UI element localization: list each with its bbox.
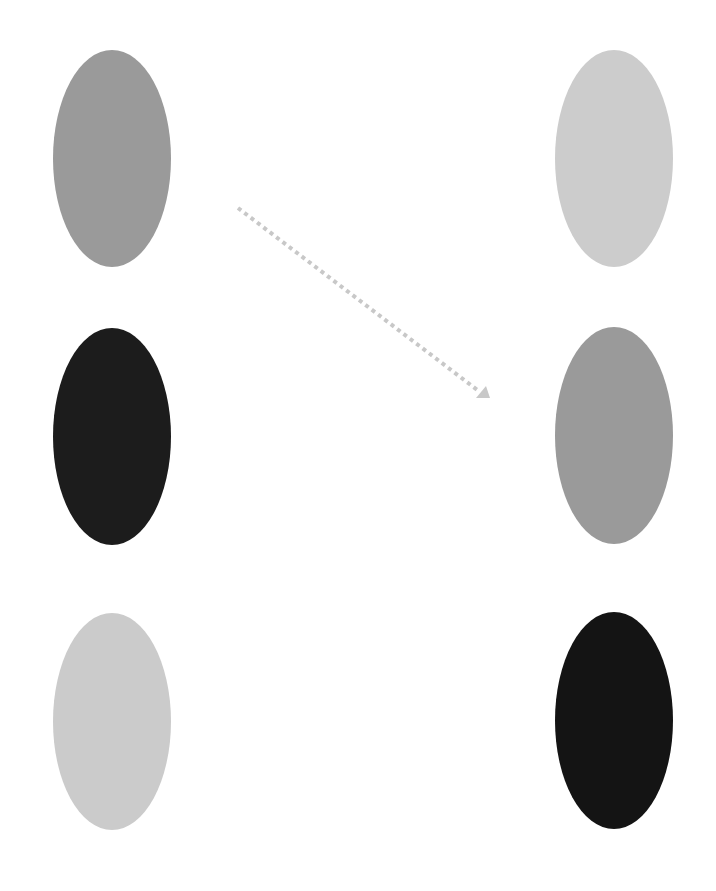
diagram-canvas (0, 0, 716, 891)
dotted-arrow-icon (0, 0, 716, 891)
